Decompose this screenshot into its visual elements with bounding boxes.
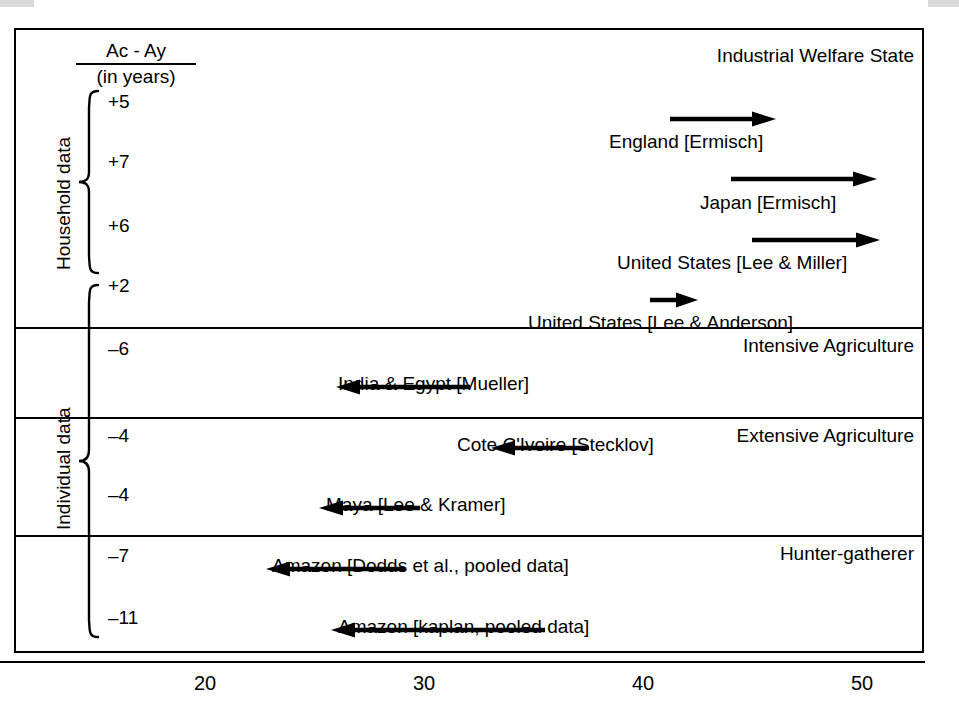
delta-value-amazon-dodds: –7 (108, 546, 129, 565)
arrow-england (668, 110, 780, 128)
axis-baseline (0, 661, 925, 663)
scan-artifact-left (0, 0, 34, 7)
axis-tick-40: 40 (632, 673, 654, 693)
delta-value-india-egypt: –6 (108, 339, 129, 358)
figure-page: Industrial Welfare State Intensive Agric… (0, 0, 959, 715)
axis-tick-20: 20 (194, 673, 216, 693)
divider-extensive-agriculture (16, 417, 922, 419)
section-label-hunter-gatherer: Hunter-gatherer (780, 544, 914, 563)
data-label-amazon-kaplan: Amazon [kaplan, pooled data] (338, 617, 589, 636)
group-label-individual-data: Individual data (54, 407, 73, 530)
column-header-ac-minus-ay: Ac - Ay (in years) (76, 40, 196, 88)
chart-plot-frame: Industrial Welfare State Intensive Agric… (14, 28, 924, 653)
data-label-india-egypt: India & Egypt [Mueller] (338, 374, 529, 393)
data-label-united-states-lee-miller: United States [Lee & Miller] (617, 253, 847, 272)
section-label-extensive-agriculture: Extensive Agriculture (737, 426, 914, 445)
data-label-maya: Maya [Lee & Kramer] (326, 495, 506, 514)
arrow-japan (729, 170, 881, 188)
delta-value-united-states-lee-miller: +6 (108, 216, 130, 235)
data-label-amazon-dodds: Amazon [Dodds et al., pooled data] (272, 556, 569, 575)
data-label-united-states-lee-anderson: United States [Lee & Anderson] (528, 313, 793, 332)
column-header-numerator: Ac - Ay (76, 40, 196, 65)
data-label-japan: Japan [Ermisch] (700, 193, 836, 212)
delta-value-england: +5 (108, 92, 130, 111)
axis-tick-30: 30 (413, 673, 435, 693)
delta-value-japan: +7 (108, 152, 130, 171)
group-label-household-data: Household data (54, 137, 73, 270)
divider-hunter-gatherer (16, 535, 922, 537)
column-header-denominator: (in years) (76, 65, 196, 88)
arrow-united-states-lee-miller (750, 231, 884, 249)
delta-value-cote-divoire: –4 (108, 426, 129, 445)
data-label-england: England [Ermisch] (609, 132, 763, 151)
section-label-intensive-agriculture: Intensive Agriculture (743, 336, 914, 355)
delta-value-amazon-kaplan: –11 (108, 608, 138, 627)
axis-tick-50: 50 (851, 673, 873, 693)
data-label-cote-divoire: Cote C'Ivoire [Stecklov] (457, 435, 654, 454)
section-label-industrial-welfare-state: Industrial Welfare State (717, 46, 914, 65)
brace-household (76, 88, 102, 276)
brace-individual (76, 282, 102, 640)
scan-artifact-right (928, 0, 959, 7)
arrow-united-states-lee-anderson (648, 291, 702, 309)
delta-value-united-states-lee-anderson: +2 (108, 276, 130, 295)
delta-value-maya: –4 (108, 485, 129, 504)
